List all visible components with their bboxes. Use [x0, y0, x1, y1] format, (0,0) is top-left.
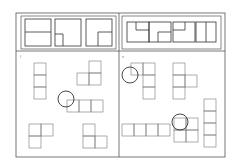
- shape-cell-L-right: [83, 124, 95, 136]
- question-item-left-2: [55, 19, 81, 46]
- shape-cell-horizontal-4: [134, 124, 146, 136]
- shape-cell-horizontal-4: [122, 124, 134, 136]
- shape-cell-L-right: [95, 136, 107, 148]
- shape-cell-vertical-with-top-left: [143, 63, 155, 75]
- shape-cell-T-shape: [173, 87, 185, 99]
- shape-cell-T-shape: [173, 75, 185, 87]
- question-item-left-1: [25, 19, 51, 46]
- shape-cell-L-corner: [77, 73, 89, 85]
- shape-cell-square-2x2: [174, 118, 186, 130]
- panel-label-right: e: [122, 54, 124, 59]
- shape-cell-T-shape: [173, 63, 185, 75]
- shape-cell-horizontal-4: [146, 124, 158, 136]
- marker-circle: [58, 91, 74, 107]
- shape-cell-horizontal-4: [158, 124, 170, 136]
- shape-cell-vertical-with-top-left: [143, 75, 155, 87]
- shape-cell-vertical-3: [34, 75, 46, 87]
- shape-cell-vertical-3: [34, 87, 46, 99]
- question-item-left-3: [86, 19, 112, 46]
- marker-circle: [172, 114, 188, 130]
- shape-cell-square-2x2: [174, 130, 186, 142]
- shape-cell-vertical-with-top-left: [143, 87, 155, 99]
- shape-cell-T-shape: [185, 75, 197, 87]
- shape-cell-L-corner: [89, 73, 101, 85]
- question-item-right-1: [127, 22, 149, 42]
- shape-cell-vertical-4: [204, 111, 216, 123]
- shape-cell-horizontal-3: [91, 100, 103, 112]
- outer-frame: [16, 13, 225, 157]
- shape-cell-horizontal-3: [67, 100, 79, 112]
- shape-cell-vertical-with-top-left: [131, 63, 143, 75]
- shape-cell-square-2x2: [186, 130, 198, 142]
- shape-cell-L-corner: [89, 61, 101, 73]
- shape-cell-vertical-4: [204, 123, 216, 135]
- shape-cell-L-right: [83, 136, 95, 148]
- question-box-left: [21, 16, 116, 49]
- shape-cell-L-left: [29, 136, 41, 148]
- shape-cell-L-left: [29, 124, 41, 136]
- shape-cell-horizontal-3: [79, 100, 91, 112]
- puzzle-figure: [0, 0, 235, 164]
- question-item-right-3: [173, 22, 195, 42]
- shape-cell-vertical-4: [204, 135, 216, 147]
- panel-label-left: f: [20, 54, 21, 59]
- shape-cell-vertical-3: [34, 63, 46, 75]
- shape-cell-L-left: [41, 124, 53, 136]
- shape-cell-vertical-4: [204, 99, 216, 111]
